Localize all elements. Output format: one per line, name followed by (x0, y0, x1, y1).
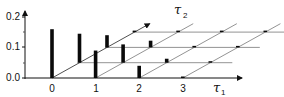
bar-tau1-1-tau2-2 (149, 41, 153, 48)
x-tick-label-0: 0 (49, 83, 55, 94)
bar-tau1-1-tau2-1 (121, 44, 125, 62)
tau1-label: τ 1 (213, 80, 226, 97)
bars (50, 29, 267, 78)
x-tick-label-1: 1 (93, 83, 99, 94)
grid-lines (52, 24, 284, 78)
x-tick-label-2: 2 (136, 83, 142, 94)
bar-tau1-3-tau2-3 (264, 31, 268, 32)
x-tick-labels: 0 1 2 3 (49, 83, 186, 94)
tau1-symbol: τ (213, 80, 221, 95)
bar-tau1-2-tau2-2 (192, 46, 196, 48)
chart-3d-stem: 0.0 0.1 0.2 0 1 2 3 τ 1 τ 2 (0, 0, 284, 97)
tau2-symbol: τ (174, 2, 182, 17)
bar-tau1-0-tau2-0 (50, 29, 54, 78)
y-tick-label-0.1: 0.1 (6, 41, 20, 52)
y-tick-label-0.0: 0.0 (6, 72, 20, 83)
bar-tau1-0-tau2-2 (105, 35, 109, 47)
bar-tau1-0-tau2-3 (133, 31, 137, 32)
bar-tau1-3-tau2-1 (209, 61, 213, 63)
x-tick-label-3: 3 (180, 83, 186, 94)
y-tick-label-0.2: 0.2 (6, 11, 20, 22)
axes (22, 11, 242, 79)
tau1-subscript: 1 (221, 88, 226, 97)
bar-tau1-2-tau2-0 (137, 66, 141, 78)
tau2-label: τ 2 (174, 2, 188, 20)
bar-tau1-3-tau2-0 (181, 77, 185, 79)
bar-tau1-1-tau2-3 (176, 31, 180, 32)
bar-tau1-1-tau2-0 (94, 51, 98, 78)
bar-tau1-2-tau2-3 (220, 31, 224, 32)
y-tick-labels: 0.0 0.1 0.2 (6, 11, 20, 83)
bar-tau1-2-tau2-1 (165, 59, 169, 63)
bar-tau1-3-tau2-2 (236, 46, 240, 48)
bar-tau1-0-tau2-1 (78, 34, 82, 63)
tau2-subscript: 2 (183, 11, 188, 20)
